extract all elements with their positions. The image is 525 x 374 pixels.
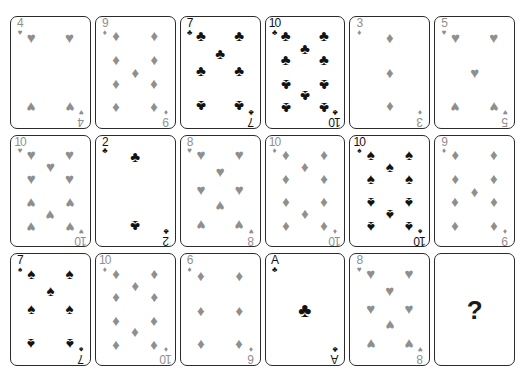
card-8-of-hearts[interactable]: 8♥8♥♥♥♥♥♥♥♥♥ <box>180 135 261 248</box>
suit-diamonds-icon: ♦ <box>386 65 394 80</box>
pip-field: ♦♦♦♦♦♦♦♦♦ <box>439 140 510 243</box>
suit-hearts-icon: ♥ <box>27 219 36 234</box>
suit-spades-icon: ♠ <box>367 196 375 211</box>
suit-diamonds-icon: ♦ <box>386 100 394 115</box>
card-7-of-clubs[interactable]: 7♣7♣♣♣♣♣♣♣♣ <box>180 16 261 129</box>
card-7-of-spades[interactable]: 7♠7♠♠♠♠♠♠♠♠ <box>10 253 91 366</box>
suit-diamonds-icon: ♦ <box>112 314 120 329</box>
suit-clubs-icon: ♣ <box>215 45 225 60</box>
suit-hearts-icon: ♥ <box>27 30 36 45</box>
pip-field: ♥♥♥♥♥♥♥♥ <box>354 258 425 361</box>
suit-hearts-icon: ♥ <box>489 30 498 45</box>
suit-diamonds-icon: ♦ <box>320 170 328 185</box>
card-6-of-diamonds[interactable]: 6♦6♦♦♦♦♦♦♦ <box>180 253 261 366</box>
pip-field: ♦♦♦♦♦♦♦♦♦ <box>100 21 171 124</box>
suit-clubs-icon: ♣ <box>319 51 329 66</box>
suit-spades-icon: ♠ <box>367 147 375 162</box>
suit-hearts-icon: ♥ <box>27 196 36 211</box>
suit-diamonds-icon: ♦ <box>282 219 290 234</box>
card-4-of-hearts[interactable]: 4♥4♥♥♥♥♥ <box>10 16 91 129</box>
card-unknown[interactable]: ? <box>434 253 515 366</box>
suit-diamonds-icon: ♦ <box>131 326 139 341</box>
suit-diamonds-icon: ♦ <box>282 196 290 211</box>
suit-hearts-icon: ♥ <box>385 318 394 333</box>
suit-diamonds-icon: ♦ <box>452 170 460 185</box>
card-10-of-diamonds[interactable]: 10♦10♦♦♦♦♦♦♦♦♦♦♦ <box>95 253 176 366</box>
suit-hearts-icon: ♥ <box>27 170 36 185</box>
suit-hearts-icon: ♥ <box>196 217 205 232</box>
suit-spades-icon: ♠ <box>386 207 394 222</box>
suit-clubs-icon: ♣ <box>234 28 244 43</box>
suit-diamonds-icon: ♦ <box>235 267 243 282</box>
pip-field: ♥♥♥♥♥♥♥♥♥♥ <box>15 140 86 243</box>
suit-hearts-icon: ♥ <box>65 196 74 211</box>
card-ace-of-clubs[interactable]: A♣A♣♣ <box>265 253 346 366</box>
suit-clubs-icon: ♣ <box>196 63 206 78</box>
suit-diamonds-icon: ♦ <box>151 28 159 43</box>
card-10-of-spades[interactable]: 10♠10♠♠♠♠♠♠♠♠♠♠♠ <box>349 135 430 248</box>
suit-clubs-icon: ♣ <box>281 28 291 43</box>
suit-diamonds-icon: ♦ <box>197 302 205 317</box>
suit-clubs-icon: ♣ <box>319 28 329 43</box>
suit-diamonds-icon: ♦ <box>490 147 498 162</box>
suit-diamonds-icon: ♦ <box>235 302 243 317</box>
suit-hearts-icon: ♥ <box>196 181 205 196</box>
suit-spades-icon: ♠ <box>386 159 394 174</box>
suit-clubs-icon: ♣ <box>281 77 291 92</box>
suit-hearts-icon: ♥ <box>27 147 36 162</box>
suit-diamonds-icon: ♦ <box>112 77 120 92</box>
suit-spades-icon: ♠ <box>405 147 413 162</box>
card-3-of-diamonds[interactable]: 3♦3♦♦♦♦ <box>349 16 430 129</box>
suit-clubs-icon: ♣ <box>281 51 291 66</box>
card-9-of-diamonds[interactable]: 9♦9♦♦♦♦♦♦♦♦♦♦ <box>95 16 176 129</box>
suit-clubs-icon: ♣ <box>234 63 244 78</box>
card-9-of-diamonds[interactable]: 9♦9♦♦♦♦♦♦♦♦♦♦ <box>434 135 515 248</box>
suit-hearts-icon: ♥ <box>216 199 225 214</box>
suit-spades-icon: ♠ <box>405 170 413 185</box>
suit-clubs-icon: ♣ <box>234 99 244 114</box>
suit-diamonds-icon: ♦ <box>151 265 159 280</box>
suit-hearts-icon: ♥ <box>216 164 225 179</box>
suit-clubs-icon: ♣ <box>196 99 206 114</box>
suit-hearts-icon: ♥ <box>65 219 74 234</box>
suit-clubs-icon: ♣ <box>130 149 140 164</box>
suit-diamonds-icon: ♦ <box>131 278 139 293</box>
suit-clubs-icon: ♣ <box>300 40 310 55</box>
pip-field: ♣♣♣♣♣♣♣♣♣♣ <box>270 21 341 124</box>
suit-hearts-icon: ♥ <box>65 30 74 45</box>
suit-diamonds-icon: ♦ <box>151 314 159 329</box>
suit-hearts-icon: ♥ <box>235 181 244 196</box>
suit-hearts-icon: ♥ <box>451 100 460 115</box>
suit-clubs-icon: ♣ <box>319 77 329 92</box>
suit-spades-icon: ♠ <box>66 265 74 280</box>
suit-spades-icon: ♠ <box>405 219 413 234</box>
card-10-of-diamonds[interactable]: 10♦10♦♦♦♦♦♦♦♦♦♦♦ <box>265 135 346 248</box>
pip-field: ♦♦♦ <box>354 21 425 124</box>
suit-clubs-icon: ♣ <box>196 28 206 43</box>
suit-hearts-icon: ♥ <box>27 100 36 115</box>
card-10-of-clubs[interactable]: 10♣10♣♣♣♣♣♣♣♣♣♣♣ <box>265 16 346 129</box>
card-5-of-hearts[interactable]: 5♥5♥♥♥♥♥♥ <box>434 16 515 129</box>
suit-diamonds-icon: ♦ <box>151 289 159 304</box>
card-8-of-hearts[interactable]: 8♥8♥♥♥♥♥♥♥♥♥ <box>349 253 430 366</box>
suit-hearts-icon: ♥ <box>46 159 55 174</box>
suit-diamonds-icon: ♦ <box>151 77 159 92</box>
pip-field: ♣ <box>270 258 341 361</box>
suit-diamonds-icon: ♦ <box>151 101 159 116</box>
suit-diamonds-icon: ♦ <box>452 219 460 234</box>
suit-diamonds-icon: ♦ <box>320 219 328 234</box>
pip-field: ♠♠♠♠♠♠♠♠♠♠ <box>354 140 425 243</box>
suit-hearts-icon: ♥ <box>366 336 375 351</box>
card-10-of-hearts[interactable]: 10♥10♥♥♥♥♥♥♥♥♥♥♥ <box>10 135 91 248</box>
suit-hearts-icon: ♥ <box>404 300 413 315</box>
suit-spades-icon: ♠ <box>27 265 35 280</box>
pip-field: ♦♦♦♦♦♦♦♦♦♦ <box>270 140 341 243</box>
suit-clubs-icon: ♣ <box>319 101 329 116</box>
suit-diamonds-icon: ♦ <box>301 159 309 174</box>
suit-hearts-icon: ♥ <box>235 147 244 162</box>
card-2-of-clubs[interactable]: 2♣2♣♣♣ <box>95 135 176 248</box>
pip-field: ♥♥♥♥♥ <box>439 21 510 124</box>
suit-diamonds-icon: ♦ <box>452 147 460 162</box>
pip-field: ♥♥♥♥♥♥♥♥ <box>185 140 256 243</box>
suit-diamonds-icon: ♦ <box>151 338 159 353</box>
